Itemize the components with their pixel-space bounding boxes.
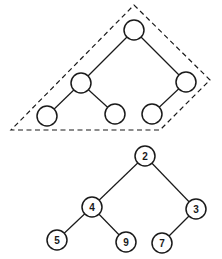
- top-tree-node: [176, 72, 196, 92]
- node-circle: [176, 72, 196, 92]
- tree-diagram: 243597: [0, 0, 222, 259]
- node-circle: [105, 104, 125, 124]
- bottom-tree: 243597: [47, 146, 206, 253]
- node-label: 3: [193, 204, 199, 215]
- node-circle: [124, 20, 144, 40]
- bottom-tree-node: 9: [116, 232, 136, 252]
- node-label: 5: [54, 235, 60, 246]
- node-label: 4: [89, 202, 95, 213]
- bottom-tree-node: 3: [186, 199, 206, 219]
- bottom-tree-node: 2: [135, 146, 155, 166]
- node-label: 9: [123, 237, 129, 248]
- node-circle: [71, 73, 91, 93]
- node-circle: [37, 106, 57, 126]
- top-tree-edges: [47, 30, 186, 116]
- bottom-tree-edge: [92, 156, 145, 207]
- bottom-tree-node: 5: [47, 230, 67, 250]
- node-label: 7: [159, 238, 165, 249]
- top-tree-node: [124, 20, 144, 40]
- top-tree-node: [142, 104, 162, 124]
- top-tree: [11, 5, 210, 130]
- bottom-tree-edge: [145, 156, 196, 209]
- bottom-tree-edges: [57, 156, 196, 243]
- bottom-tree-node: 7: [152, 233, 172, 253]
- top-tree-node: [71, 73, 91, 93]
- bottom-tree-node: 4: [82, 197, 102, 217]
- top-tree-node: [37, 106, 57, 126]
- bottom-tree-nodes: 243597: [47, 146, 206, 253]
- node-label: 2: [142, 151, 148, 162]
- node-circle: [142, 104, 162, 124]
- top-tree-nodes: [37, 20, 196, 126]
- top-tree-edge: [81, 30, 134, 83]
- top-tree-node: [105, 104, 125, 124]
- top-tree-edge: [134, 30, 186, 82]
